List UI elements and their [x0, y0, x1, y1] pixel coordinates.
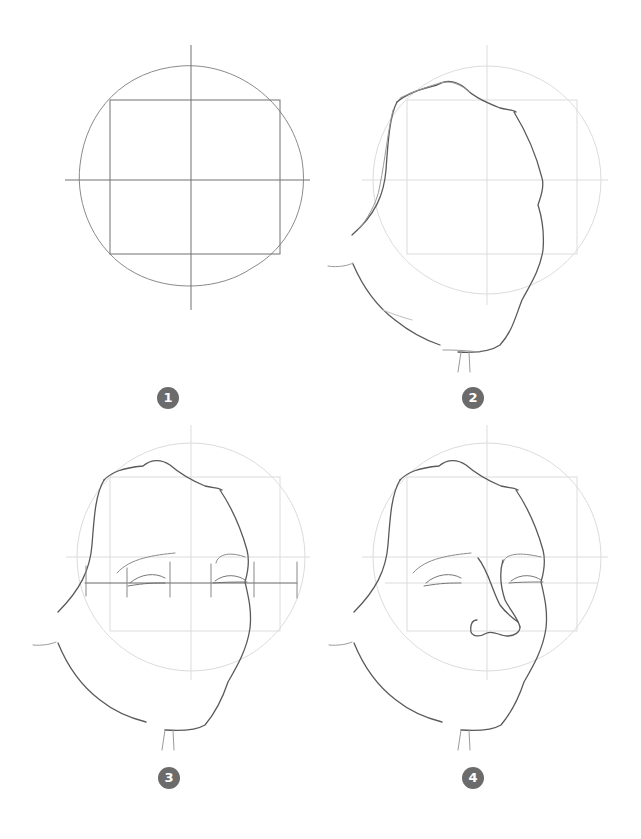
step-2-drawing: [328, 45, 608, 372]
jaw-line: [353, 264, 440, 345]
step-4-drawing: [329, 425, 608, 750]
ear: [328, 263, 353, 267]
step-3-badge: 3: [158, 767, 180, 789]
step-1-drawing: [65, 45, 310, 310]
neck-left: [458, 352, 461, 372]
step-2-badge: 2: [462, 387, 484, 409]
ear: [33, 642, 56, 645]
cheek-sketch: [383, 310, 412, 320]
step-4-badge: 4: [462, 767, 484, 789]
left-brow: [117, 553, 175, 573]
face-square: [110, 100, 280, 254]
neck-right: [469, 730, 470, 750]
right-face-contour: [165, 490, 251, 730]
right-face-contour: [458, 112, 543, 352]
left-eye: [424, 575, 461, 586]
left-hair-sketch: [358, 110, 393, 230]
right-brow: [503, 554, 541, 563]
step-3-drawing: [33, 425, 310, 750]
ear: [329, 642, 352, 645]
face-square-faded: [407, 100, 577, 254]
left-hair: [354, 480, 400, 612]
left-eye: [128, 575, 165, 586]
left-brow: [413, 553, 471, 573]
neck-left: [162, 730, 165, 750]
face-square-faded: [407, 477, 577, 631]
nose-tip: [471, 620, 520, 636]
neck-right: [173, 730, 174, 750]
step-1-badge: 1: [157, 387, 179, 409]
neck-left: [458, 730, 461, 750]
nose-bridge-right: [501, 560, 520, 627]
right-eye: [509, 576, 543, 583]
hairline: [400, 461, 518, 490]
hairline: [397, 82, 516, 112]
hairline: [104, 461, 222, 490]
tutorial-canvas: [0, 0, 641, 839]
neck-right: [469, 352, 470, 372]
right-eye: [213, 576, 247, 583]
left-hair: [58, 480, 104, 612]
right-brow: [216, 554, 245, 563]
face-square-faded: [110, 477, 280, 631]
